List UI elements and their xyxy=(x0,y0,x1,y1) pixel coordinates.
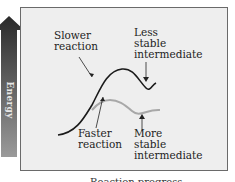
slower-reaction-label: Slower reaction xyxy=(54,30,98,52)
x-axis-label: Reaction progress xyxy=(90,176,182,182)
less-stable-intermediate-label: Less stable intermediate xyxy=(134,27,203,60)
more-stable-intermediate-label: More stable intermediate xyxy=(134,128,203,161)
faster-reaction-label: Faster reaction xyxy=(78,128,122,150)
